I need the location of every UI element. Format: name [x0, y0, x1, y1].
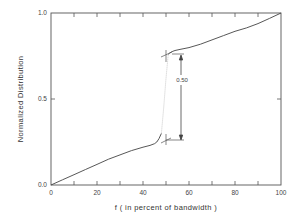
x-axis-title: f ( in percent of bandwidth )	[115, 203, 218, 212]
chart-canvas: 0 20 40 60 80 100 0.0 0.5 1.0 f ( in per…	[0, 0, 299, 218]
x-tick-label: 0	[49, 189, 53, 196]
transition-curve	[161, 54, 168, 133]
lower-curve	[51, 133, 161, 185]
x-axis-ticks-top	[74, 13, 258, 17]
x-tick-label: 80	[231, 189, 239, 196]
y-tick-label: 0.5	[38, 95, 47, 102]
upper-curve	[168, 13, 281, 54]
x-tick-label: 20	[93, 189, 101, 196]
y-tick-label: 1.0	[38, 9, 47, 16]
y-tick-label: 0.0	[38, 181, 47, 188]
x-tick-label: 100	[276, 189, 287, 196]
y-axis-title: Normalized Distribution	[16, 56, 25, 143]
x-tick-label: 40	[139, 189, 147, 196]
y-tick-labels: 0.0 0.5 1.0	[38, 9, 47, 188]
x-axis-ticks-bottom	[74, 181, 258, 185]
x-tick-labels: 0 20 40 60 80 100	[49, 189, 287, 196]
x-tick-label: 60	[185, 189, 193, 196]
annotation-label: 0.50	[176, 77, 188, 83]
dimension-arrow	[179, 55, 182, 140]
plot-frame	[51, 13, 281, 185]
